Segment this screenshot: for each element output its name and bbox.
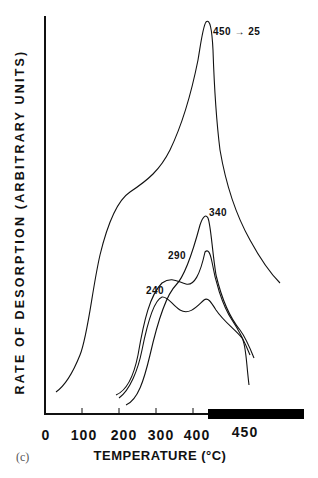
panel-label: (c) <box>16 450 29 465</box>
x-tick-label-300: 300 <box>148 427 174 443</box>
chart-plot <box>0 0 318 478</box>
x-axis-label: TEMPERATURE (°C) <box>94 448 227 463</box>
curve-label-450-25: 450 → 25 <box>213 26 260 37</box>
y-axis-label: RATE OF DESORPTION (ARBITRARY UNITS) <box>13 50 27 395</box>
curve-label-290: 290 <box>168 250 186 261</box>
isothermal-hold-bar <box>208 409 304 419</box>
curve-240 <box>119 297 249 398</box>
curve-label-240: 240 <box>146 285 164 296</box>
x-tick-label-100: 100 <box>71 427 97 443</box>
x-tick-label-200: 200 <box>111 427 137 443</box>
x-tick-label-0: 0 <box>42 427 51 443</box>
x-tick-label-450: 450 <box>232 424 258 440</box>
curve-290 <box>116 251 250 395</box>
curve-450-25 <box>56 21 280 392</box>
curve-label-340: 340 <box>209 207 227 218</box>
x-tick-label-400: 400 <box>184 427 210 443</box>
